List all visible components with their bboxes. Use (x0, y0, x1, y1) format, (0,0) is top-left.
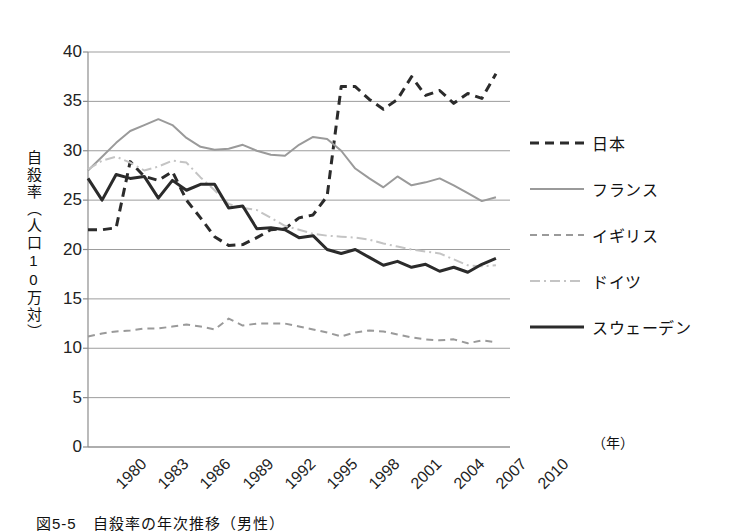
legend-swatch-icon (530, 320, 584, 334)
chart-legend: 日本フランスイギリスドイツスウェーデン (530, 120, 740, 350)
legend-swatch-icon (530, 182, 584, 196)
x-tick-label: 2007 (492, 455, 530, 493)
x-tick-label: 1998 (366, 455, 404, 493)
x-tick-label: 1989 (239, 455, 277, 493)
legend-item-4: ドイツ (530, 258, 740, 304)
legend-item-1: 日本 (530, 120, 740, 166)
legend-label: ドイツ (592, 269, 642, 293)
x-tick-label: 1980 (112, 455, 150, 493)
legend-swatch-icon (530, 228, 584, 242)
legend-swatch-icon (530, 136, 584, 150)
legend-item-3: イギリス (530, 212, 740, 258)
legend-label: イギリス (592, 223, 658, 247)
x-axis-unit: （年） (592, 432, 634, 452)
x-tick-label: 1986 (197, 455, 235, 493)
figure-caption: 図5-5 自殺率の年次推移（男性） (36, 512, 285, 532)
x-tick-label: 1992 (281, 455, 319, 493)
x-tick-label: 1983 (155, 455, 193, 493)
chart-figure: 自殺率（人口10万対） 0510152025303540 19801983198… (0, 0, 745, 532)
legend-swatch-icon (530, 274, 584, 288)
x-tick-label: 2001 (408, 455, 446, 493)
legend-item-5: スウェーデン (530, 304, 740, 350)
x-tick-label: 2004 (450, 455, 488, 493)
legend-label: 日本 (592, 131, 625, 155)
x-tick-label: 1995 (323, 455, 361, 493)
x-tick-label: 2010 (534, 455, 572, 493)
legend-label: フランス (592, 177, 658, 201)
legend-item-2: フランス (530, 166, 740, 212)
legend-label: スウェーデン (592, 315, 691, 339)
